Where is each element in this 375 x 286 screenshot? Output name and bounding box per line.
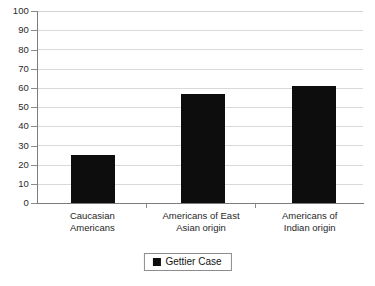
y-tick-label: 0 bbox=[1, 198, 29, 208]
category-label-east-asian-origin: Americans of East Asian origin bbox=[147, 210, 256, 244]
y-tick-label: 20 bbox=[1, 160, 29, 170]
legend-swatch-icon bbox=[152, 258, 160, 266]
y-tick-label: 80 bbox=[1, 45, 29, 55]
bar-chart: 100 90 80 70 60 50 40 30 20 10 0 bbox=[0, 0, 375, 286]
bar-east-asian-origin bbox=[181, 94, 225, 203]
legend-label: Gettier Case bbox=[165, 256, 221, 267]
gridline bbox=[38, 69, 363, 70]
bar-indian-origin bbox=[292, 86, 336, 203]
category-label-line: Indian origin bbox=[257, 222, 362, 234]
y-tick-label: 70 bbox=[1, 64, 29, 74]
y-tick-label: 60 bbox=[1, 83, 29, 93]
gridline bbox=[38, 49, 363, 50]
category-label-line: Caucasian bbox=[40, 210, 145, 222]
y-tick-label: 40 bbox=[1, 121, 29, 131]
y-tick-label: 90 bbox=[1, 25, 29, 35]
category-label-line: Americans of bbox=[257, 210, 362, 222]
x-axis-divider bbox=[255, 203, 256, 208]
chart-legend: Gettier Case bbox=[143, 253, 231, 271]
category-label-indian-origin: Americans of Indian origin bbox=[255, 210, 364, 244]
y-tick-label: 100 bbox=[1, 6, 29, 16]
y-tick-label: 50 bbox=[1, 102, 29, 112]
plot-area bbox=[38, 11, 363, 203]
y-axis-labels: 100 90 80 70 60 50 40 30 20 10 0 bbox=[0, 0, 29, 215]
category-label-line: Americans bbox=[40, 222, 145, 234]
category-label-line: Asian origin bbox=[149, 222, 254, 234]
gridline bbox=[38, 11, 363, 12]
category-label-line: Americans of East bbox=[149, 210, 254, 222]
x-axis-line bbox=[38, 203, 364, 204]
x-axis-divider bbox=[146, 203, 147, 208]
y-tick-label: 10 bbox=[1, 179, 29, 189]
x-axis-labels: Caucasian Americans Americans of East As… bbox=[38, 210, 364, 244]
y-axis-line bbox=[37, 11, 38, 204]
bar-caucasian-americans bbox=[71, 155, 115, 203]
category-label-caucasian-americans: Caucasian Americans bbox=[38, 210, 147, 244]
gridline bbox=[38, 30, 363, 31]
y-tick-label: 30 bbox=[1, 141, 29, 151]
